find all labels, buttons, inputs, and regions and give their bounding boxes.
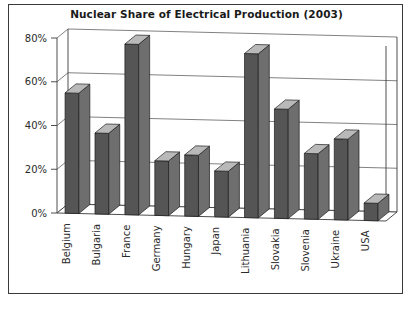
x-axis-tick-label: Slovakia	[270, 228, 281, 270]
bar-ukraine	[334, 130, 359, 220]
x-axis-tick-label: Belgium	[61, 223, 72, 264]
x-axis-tick-label: Ukraine	[330, 230, 341, 269]
chart-figure: Nuclear Share of Electrical Production (…	[0, 0, 413, 309]
y-axis-tick-label: 60%	[25, 76, 47, 87]
bar-france	[125, 35, 150, 215]
x-axis-tick-label: Hungary	[181, 226, 192, 269]
bar-japan	[215, 162, 240, 217]
x-axis-tick-label: Lithuania	[240, 228, 251, 274]
y-axis-tick-label: 20%	[25, 164, 47, 175]
y-axis-tick-label: 80%	[25, 33, 47, 44]
bar-germany	[155, 152, 180, 216]
x-axis-tick-label: Japan	[211, 227, 222, 256]
x-axis: BelgiumBulgariaFranceGermanyHungaryJapan…	[61, 223, 371, 274]
x-axis-tick-label: USA	[360, 230, 371, 251]
chart-plot-area: 0%20%40%60%80% BelgiumBulgariaFranceGerm…	[0, 0, 413, 309]
bar-lithuania	[245, 44, 270, 217]
y-axis: 0%20%40%60%80%	[25, 33, 57, 219]
y-axis-tick-label: 0%	[31, 208, 47, 219]
bar-slovakia	[274, 100, 299, 219]
x-axis-tick-label: Bulgaria	[91, 224, 102, 265]
bar-belgium	[65, 84, 90, 214]
bar-hungary	[185, 146, 210, 217]
x-axis-tick-label: France	[121, 225, 132, 258]
bar-bulgaria	[95, 124, 120, 214]
x-axis-tick-label: Slovenia	[300, 229, 311, 272]
x-axis-tick-label: Germany	[151, 225, 162, 271]
bar-slovenia	[304, 144, 329, 219]
y-axis-tick-label: 40%	[25, 120, 47, 131]
